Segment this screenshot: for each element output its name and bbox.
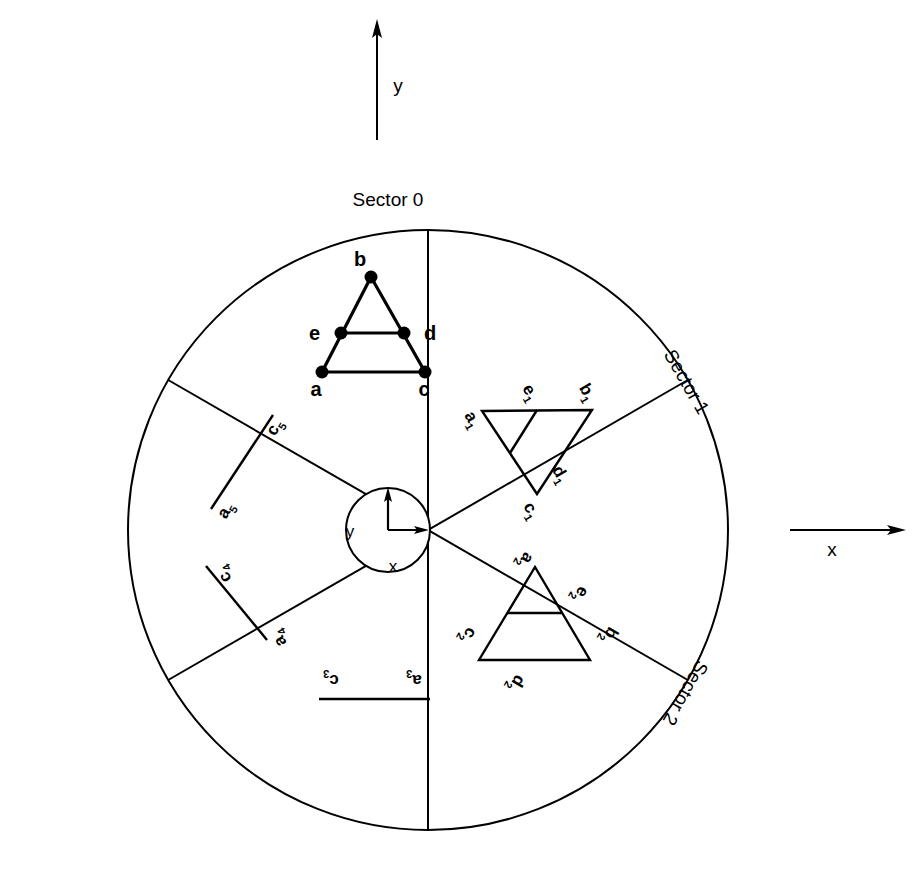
vertex-label-a5: a5 — [213, 499, 240, 524]
segment-sector-3: a3c3 — [319, 668, 430, 699]
hub-x-label: x — [389, 557, 398, 576]
vertex-dot-b — [365, 271, 378, 284]
sector-spoke-4 — [168, 566, 366, 680]
vertex-dot-d — [398, 327, 411, 340]
sector-0-vertex-dots — [316, 271, 432, 379]
sector-1-midline — [510, 410, 537, 453]
vertex-label-c: c — [418, 378, 429, 400]
vertex-label-e: e — [309, 322, 320, 344]
hub-group: y x — [346, 487, 430, 576]
sector-0-label: Sector 0 — [353, 189, 424, 210]
vertex-label-a4: a4 — [266, 625, 293, 650]
sector-1-vertex-labels: a1b1c1d1e1 — [458, 380, 600, 523]
triangle-sector-0: abcde — [309, 248, 436, 400]
vertex-label-c4: c4 — [211, 561, 238, 586]
sector-1-label: Sector 1 — [660, 346, 714, 418]
sector-wheel-figure: y x y x Sector 0Sector 1Sector 2 abcde — [0, 0, 917, 879]
vertex-label-b: b — [354, 248, 366, 270]
segment-sector-5: a5c5 — [211, 415, 289, 523]
segment-sector-4: a4c4 — [206, 561, 293, 650]
hub-y-label: y — [346, 522, 355, 541]
vertex-label-e1: e1 — [516, 381, 543, 406]
vertex-label-e2: e2 — [566, 582, 593, 607]
vertex-label-d: d — [424, 322, 436, 344]
vertex-label-d2: d2 — [502, 670, 529, 695]
sector-label-group: Sector 0Sector 1Sector 2 — [353, 189, 714, 729]
diagram-root: y x y x Sector 0Sector 1Sector 2 abcde — [0, 0, 917, 879]
vertex-label-a: a — [310, 378, 322, 400]
vertex-label-a3: a3 — [406, 668, 422, 690]
vertex-dot-c — [419, 366, 432, 379]
sector-spoke-1 — [430, 380, 688, 529]
sector-5-labels: a5c5 — [213, 416, 289, 524]
sector-0-triangle-outline — [322, 277, 425, 372]
global-y-axis-label: y — [393, 75, 403, 96]
vertex-label-c3: c3 — [323, 668, 339, 690]
vertex-dot-e — [335, 327, 348, 340]
vertex-dot-a — [316, 366, 329, 379]
sector-spoke-5 — [168, 380, 366, 494]
sector-4-labels: a4c4 — [211, 561, 293, 650]
sector-3-labels: a3c3 — [323, 668, 422, 690]
vertex-label-c1: c1 — [517, 499, 544, 524]
vertex-label-b2: b2 — [595, 622, 622, 647]
vertex-label-b1: b1 — [573, 380, 600, 405]
global-axes: y x — [372, 19, 906, 560]
triangle-sector-2: a2b2c2d2e2 — [454, 548, 622, 696]
global-x-axis-label: x — [827, 539, 837, 560]
triangle-sector-1: a1b1c1d1e1 — [458, 380, 600, 523]
vertex-label-c2: c2 — [454, 623, 481, 648]
sector-4-segment — [206, 566, 267, 640]
sector-1-triangle-outline — [482, 410, 592, 494]
